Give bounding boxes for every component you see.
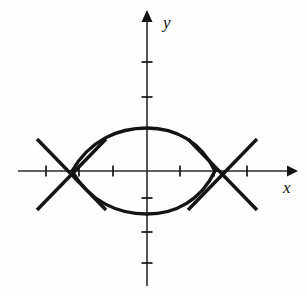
figure-container: y x	[0, 0, 307, 296]
x-axis-label: x	[282, 178, 291, 197]
graph-canvas: y x	[0, 0, 307, 296]
y-axis-label: y	[161, 13, 171, 32]
